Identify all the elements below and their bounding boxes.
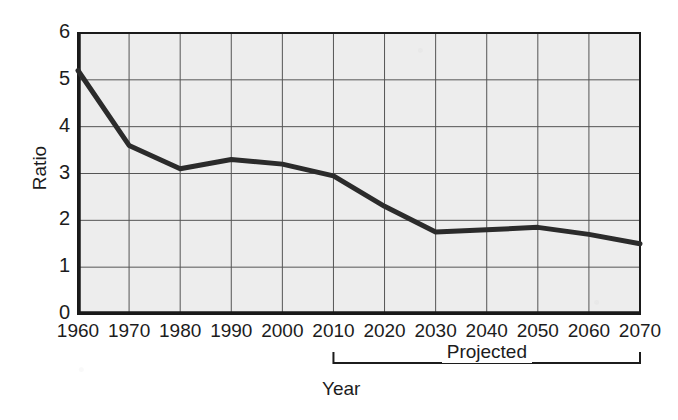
x-tick-label-1990: 1990	[203, 320, 259, 342]
chart-figure: 0123456 19601970198019902000201020202030…	[0, 0, 678, 420]
x-tick-label-2040: 2040	[459, 320, 515, 342]
x-tick-label-2050: 2050	[510, 320, 566, 342]
x-tick-label-1980: 1980	[152, 320, 208, 342]
x-tick-label-2060: 2060	[561, 320, 617, 342]
x-tick-label-2020: 2020	[357, 320, 413, 342]
x-axis-title: Year	[322, 378, 360, 400]
x-tick-label-1970: 1970	[101, 320, 157, 342]
x-tick-label-2000: 2000	[254, 320, 310, 342]
chart-svg	[0, 0, 678, 420]
projected-annotation-label: Projected	[442, 341, 532, 363]
x-tick-label-2010: 2010	[305, 320, 361, 342]
y-tick-label-6: 6	[44, 20, 70, 43]
y-axis-title: Ratio	[29, 118, 51, 218]
y-tick-label-1: 1	[44, 254, 70, 277]
x-tick-label-1960: 1960	[50, 320, 106, 342]
y-tick-label-5: 5	[44, 67, 70, 90]
x-tick-label-2030: 2030	[408, 320, 464, 342]
x-tick-label-2070: 2070	[612, 320, 668, 342]
